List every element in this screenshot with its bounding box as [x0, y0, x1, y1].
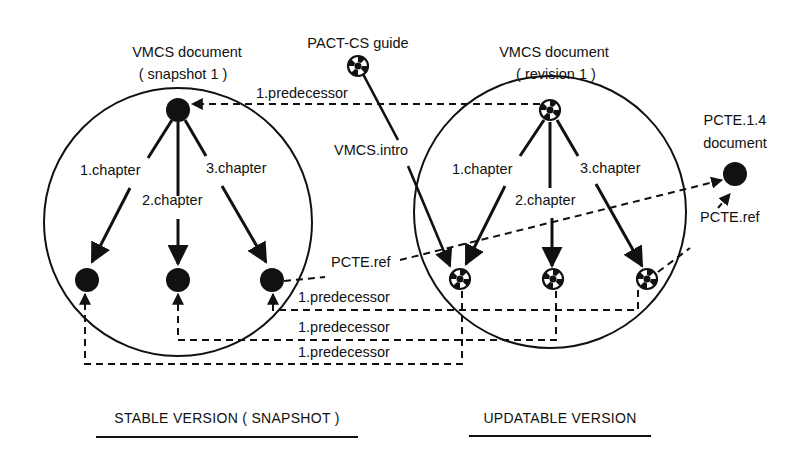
stable-title-line1: VMCS document: [132, 45, 242, 60]
pcte-title-line2: document: [703, 136, 767, 151]
updatable-root-node[interactable]: [540, 100, 560, 120]
updatable-edge-label-3: 3.chapter: [580, 161, 640, 176]
stable-edge-label-3: 3.chapter: [206, 161, 266, 176]
updatable-chapter-2-node[interactable]: [543, 269, 563, 289]
vmcs-intro-edge: [363, 74, 450, 266]
predecessor-label-ch1: 1.predecessor: [298, 345, 390, 360]
pcte-ref-edge-stable: [284, 277, 325, 281]
predecessor-label-ch2: 1.predecessor: [298, 320, 390, 335]
predecessor-label-root: 1.predecessor: [256, 86, 348, 101]
pact-cs-guide-node[interactable]: [348, 56, 368, 76]
stable-title-line2: ( snapshot 1 ): [139, 67, 228, 82]
stable-chapter-3-node[interactable]: [260, 268, 284, 292]
stable-edge-label-2: 2.chapter: [142, 193, 202, 208]
updatable-edge-label-2: 2.chapter: [515, 193, 575, 208]
stable-footer: STABLE VERSION ( SNAPSHOT ): [114, 410, 339, 426]
stable-chapter-1-node[interactable]: [75, 268, 99, 292]
guide-title: PACT-CS guide: [307, 36, 408, 51]
updatable-title-line1: VMCS document: [499, 45, 609, 60]
updatable-chapter-1-node[interactable]: [450, 269, 470, 289]
updatable-footer: UPDATABLE VERSION: [483, 410, 636, 426]
stable-edge-label-1: 1.chapter: [80, 163, 140, 178]
pcte-ref-label-stable: PCTE.ref: [331, 255, 391, 270]
updatable-edge-label-1: 1.chapter: [452, 162, 512, 177]
pcte-ref-edge-updatable-2: [718, 194, 730, 208]
version-diagram: [0, 0, 805, 463]
updatable-title-line2: ( revision 1 ): [516, 67, 596, 82]
pcte-ref-label-updatable: PCTE.ref: [700, 210, 760, 225]
stable-root-node[interactable]: [166, 98, 190, 122]
predecessor-label-ch3: 1.predecessor: [298, 290, 390, 305]
updatable-chapter-3-node[interactable]: [637, 269, 657, 289]
pcte-document-node[interactable]: [723, 162, 747, 186]
stable-chapter-2-node[interactable]: [166, 268, 190, 292]
vmcs-intro-label: VMCS.intro: [334, 143, 408, 158]
pcte-title-line1: PCTE.1.4: [704, 113, 767, 128]
